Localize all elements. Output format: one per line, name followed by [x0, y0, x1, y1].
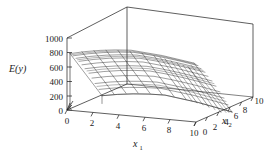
- mesh-row-9: [99, 87, 228, 104]
- mesh-col-0: [70, 54, 102, 96]
- x2tick-label-10: 10: [255, 96, 265, 106]
- vtick-label-200: 200: [50, 92, 64, 102]
- mesh-col-8: [165, 59, 197, 103]
- x1tick-label-2: 2: [90, 118, 95, 128]
- x1tick-label-0: 0: [65, 116, 70, 126]
- surface-plot-figure: 1000 800 600 400 200 0 0 2 4 6 8 10 0 2 …: [0, 0, 269, 153]
- x1tick-8: [168, 120, 170, 124]
- vtick-label-1000: 1000: [45, 34, 64, 44]
- x1tick-label-6: 6: [142, 123, 147, 133]
- vertical-axis-ticks: [67, 38, 72, 110]
- mesh-col-7: [154, 56, 186, 100]
- x2-tick-labels: 0 2 4 6 8 10: [203, 96, 264, 137]
- mesh-col-right-edge: [194, 63, 232, 112]
- x1-tick-labels: 0 2 4 6 8 10: [65, 116, 199, 138]
- x2tick-0: [194, 122, 196, 126]
- mesh-row-4: [82, 62, 208, 77]
- mesh-col-9: [177, 63, 209, 107]
- x1tick-label-8: 8: [167, 125, 172, 135]
- x2tick-label-0: 0: [203, 127, 208, 137]
- vertical-axis-title: E(y): [8, 63, 27, 75]
- vtick-label-400: 400: [50, 77, 64, 87]
- x1tick-0: [65, 110, 67, 114]
- x2-axis-title-subscript: 2: [229, 121, 232, 128]
- mesh-row-3: [79, 58, 205, 72]
- floor-back-right-edge: [127, 84, 253, 97]
- x2tick-label-2: 2: [213, 122, 218, 132]
- axes-box-frame: [67, 7, 253, 122]
- x1-axis-title: x 1: [132, 138, 143, 151]
- x1-axis-ticks: [65, 110, 196, 126]
- x1tick-6: [143, 117, 145, 121]
- vtick-label-600: 600: [50, 63, 64, 73]
- vertical-tick-labels: 1000 800 600 400 200 0: [45, 34, 64, 116]
- vtick-label-0: 0: [59, 106, 64, 116]
- x1tick-4: [117, 115, 119, 119]
- vtick-label-800: 800: [50, 48, 64, 58]
- box-top-left-edge: [67, 7, 127, 38]
- x2-axis-title-base: x: [221, 115, 227, 126]
- x1-axis-title-subscript: 1: [140, 144, 143, 151]
- box-top-right-edge: [127, 7, 253, 24]
- x1tick-2: [91, 112, 93, 116]
- x2tick-label-8: 8: [243, 105, 248, 115]
- surface-mesh: [70, 50, 232, 113]
- x1tick-label-4: 4: [116, 121, 121, 131]
- x2tick-label-6: 6: [234, 111, 239, 121]
- x2-axis-title: x 2: [221, 115, 232, 128]
- x1-axis-title-base: x: [132, 138, 138, 149]
- floor-x1-axis: [67, 110, 196, 122]
- x1tick-label-10: 10: [190, 128, 200, 138]
- plot-canvas: 1000 800 600 400 200 0 0 2 4 6 8 10 0 2 …: [0, 0, 269, 153]
